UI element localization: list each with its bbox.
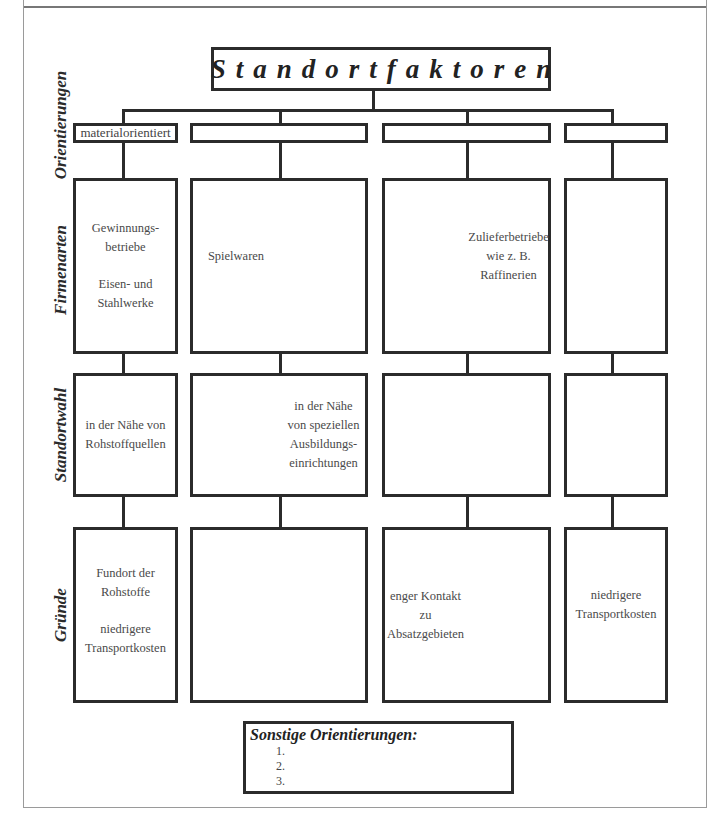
cell-text: Rohstoffe [101, 583, 150, 602]
cell-col3-firmenarten-right[interactable]: Zulieferbetriebe wie z. B. Raffinerien [469, 181, 548, 331]
orientation-box-3[interactable] [382, 123, 551, 143]
cell-text: niedrigere [100, 620, 151, 639]
row-label-firmenarten: Firmenarten [51, 225, 71, 315]
cell-text: wie z. B. [486, 247, 530, 266]
sonstige-list: 1. 2. 3. [250, 744, 511, 789]
cell-col1-firmenarten[interactable]: Gewinnungs- betriebe Eisen- und Stahlwer… [73, 178, 178, 354]
row-label-gruende-wrap: Gründe [46, 560, 76, 670]
col4-connector-1 [611, 143, 614, 179]
cell-text: einrichtungen [289, 454, 358, 473]
cell-text: in der Nähe von [85, 416, 165, 435]
cell-col3-standortwahl-left[interactable] [385, 376, 466, 494]
title-connector [372, 91, 375, 111]
sonstige-item-3[interactable]: 3. [276, 774, 511, 789]
cell-text: zu [420, 606, 432, 625]
col1-connector-2 [122, 353, 125, 374]
cell-text: Transportkosten [576, 605, 657, 624]
row-label-standortwahl-wrap: Standortwahl [46, 375, 76, 495]
cell-col3-standortwahl-right[interactable] [469, 376, 548, 494]
sonstige-orientierungen-box[interactable]: Sonstige Orientierungen: 1. 2. 3. [243, 721, 514, 794]
sonstige-title: Sonstige Orientierungen: [250, 726, 511, 744]
orientation-box-1[interactable]: materialorientiert [73, 123, 178, 143]
cell-col2-standortwahl-left[interactable] [193, 376, 279, 494]
cell-text: Eisen- und [99, 275, 153, 294]
cell-col2-firmenarten-right[interactable] [282, 181, 365, 351]
cell-text: von speziellen [288, 416, 360, 435]
row-label-orientierungen-wrap: Orientierungen [46, 60, 76, 190]
diagram-title: Standortfaktoren [201, 54, 562, 85]
sonstige-item-2[interactable]: 2. [276, 759, 511, 774]
cell-col4-standortwahl[interactable] [564, 373, 668, 497]
stem-col4-top [611, 109, 614, 124]
cell-text: Fundort der [96, 564, 155, 583]
col4-connector-3 [611, 496, 614, 528]
title-box: Standortfaktoren [211, 47, 551, 91]
cell-col2-gruende-left[interactable] [193, 530, 279, 700]
cell-col4-gruende[interactable]: niedrigere Transportkosten [564, 527, 668, 703]
cell-text: niedrigere [591, 586, 642, 605]
cell-text: in der Nähe [294, 397, 352, 416]
col1-connector-1 [122, 143, 125, 179]
sonstige-item-1[interactable]: 1. [276, 744, 511, 759]
cell-text: Absatzgebieten [387, 625, 464, 644]
orientation-label-1: materialorientiert [80, 125, 170, 141]
col1-connector-3 [122, 496, 125, 528]
orientation-box-2[interactable] [190, 123, 368, 143]
cell-col2-standortwahl-right[interactable]: in der Nähe von speziellen Ausbildungs- … [282, 386, 365, 484]
cell-text: enger Kontakt [390, 587, 461, 606]
cell-col3-gruende-right[interactable] [469, 530, 548, 700]
cell-col4-firmenarten[interactable] [564, 178, 668, 354]
cell-text: Stahlwerke [97, 294, 153, 313]
cell-col3-gruende-left[interactable]: enger Kontakt zu Absatzgebieten [385, 530, 466, 700]
cell-text: Ausbildungs- [290, 435, 357, 454]
col4-connector-2 [611, 353, 614, 374]
row-label-orientierungen: Orientierungen [51, 71, 71, 180]
cell-text: Spielwaren [208, 247, 264, 266]
cell-text: Gewinnungs- [92, 219, 159, 238]
orientation-box-4[interactable] [564, 123, 668, 143]
cell-col2-firmenarten-left[interactable]: Spielwaren [193, 181, 279, 331]
cell-text: Raffinerien [480, 266, 537, 285]
cell-text: Transportkosten [85, 639, 166, 658]
row-label-gruende: Gründe [51, 588, 71, 642]
stem-col2-top [279, 109, 282, 124]
cell-col3-firmenarten-left[interactable] [385, 181, 466, 351]
cell-text: Rohstoffquellen [85, 435, 165, 454]
cell-text: Zulieferbetriebe [468, 228, 549, 247]
cell-col1-gruende[interactable]: Fundort der Rohstoffe niedrigere Transpo… [73, 527, 178, 703]
branch-line [122, 109, 614, 112]
stem-col1-top [122, 109, 125, 124]
row-label-firmenarten-wrap: Firmenarten [46, 205, 76, 335]
stem-col3-top [466, 109, 469, 124]
cell-col2-gruende-right[interactable] [282, 530, 365, 700]
cell-text: betriebe [105, 238, 145, 257]
cell-col1-standortwahl[interactable]: in der Nähe von Rohstoffquellen [73, 373, 178, 497]
row-label-standortwahl: Standortwahl [51, 388, 71, 483]
